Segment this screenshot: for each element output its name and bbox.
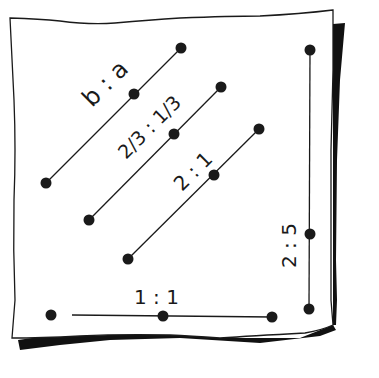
ratio-diagram: b : a 2/3 : 1/3 2 : 1 2 : 5 1 : 1 [0,0,379,378]
label-one-one: 1 : 1 [134,285,179,309]
label-two-five: 2 : 5 [277,223,301,268]
paper-shadow-right [333,23,345,325]
